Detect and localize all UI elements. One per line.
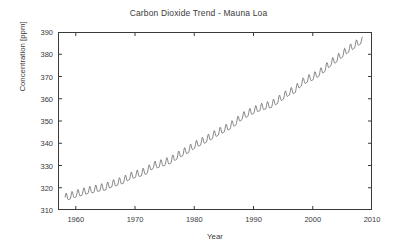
x-tick-label: 1980 bbox=[177, 215, 211, 224]
chart-figure: Carbon Dioxide Trend - Mauna Loa Concent… bbox=[0, 0, 397, 250]
x-axis-label: Year bbox=[58, 232, 372, 241]
y-tick-label: 370 bbox=[27, 73, 53, 82]
y-tick-label: 330 bbox=[27, 162, 53, 171]
x-tick-label: 2010 bbox=[355, 215, 389, 224]
y-tick-label: 360 bbox=[27, 95, 53, 104]
plot-svg bbox=[58, 32, 372, 210]
plot-frame bbox=[59, 33, 372, 210]
y-tick-label: 340 bbox=[27, 139, 53, 148]
y-tick-label: 390 bbox=[27, 28, 53, 37]
x-tick-label: 1970 bbox=[118, 215, 152, 224]
x-tick-label: 2000 bbox=[296, 215, 330, 224]
y-axis-label: Concentration [ppm] bbox=[18, 0, 27, 117]
x-tick-label: 1960 bbox=[59, 215, 93, 224]
plot-area bbox=[58, 32, 372, 210]
y-tick-label: 380 bbox=[27, 50, 53, 59]
y-tick-label: 310 bbox=[27, 206, 53, 215]
y-tick-label: 320 bbox=[27, 184, 53, 193]
y-tick-label: 350 bbox=[27, 117, 53, 126]
x-tick-label: 1990 bbox=[237, 215, 271, 224]
chart-title: Carbon Dioxide Trend - Mauna Loa bbox=[0, 8, 397, 18]
